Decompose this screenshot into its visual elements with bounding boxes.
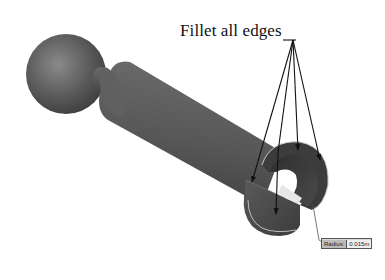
radius-tag[interactable]: Radius: 0.015m — [321, 238, 372, 249]
front-jaw — [244, 180, 300, 236]
callout-label: Fillet all edges — [180, 21, 282, 41]
leader-line-2 — [278, 40, 293, 152]
radius-tag-value[interactable]: 0.015m — [347, 240, 371, 248]
radius-tag-label: Radius: — [322, 240, 347, 248]
radius-tag-leader — [313, 205, 322, 242]
